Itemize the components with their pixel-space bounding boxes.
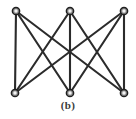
graph-vertex-core-b2 [68, 91, 71, 94]
figure-container: (b) [0, 0, 136, 119]
graph-vertex-core-b1 [13, 91, 16, 94]
graph-vertex-core-t1 [14, 9, 17, 12]
graph-vertex-core-t2 [68, 9, 71, 12]
figure-caption: (b) [0, 99, 136, 112]
graph-vertex-core-b3 [122, 91, 125, 94]
edge-layer [15, 11, 124, 93]
graph-edge-t1-b1 [15, 11, 16, 93]
graph-vertex-core-t3 [122, 9, 125, 12]
